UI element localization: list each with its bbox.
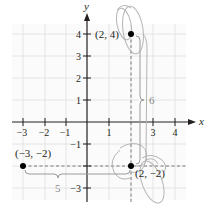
brace-horizontal-label: 5 [55,182,61,194]
point-label-2-4: (2, 4) [95,28,119,41]
x-tick-label: −1 [60,127,71,138]
y-tick-label: 3 [76,51,81,62]
point-2-neg2 [128,163,134,169]
x-tick-label: 1 [107,127,112,138]
y-tick-label: 1 [76,95,81,106]
brace-vertical-label: 6 [149,94,155,106]
y-tick-label: 4 [76,29,81,40]
point-2-4 [128,31,134,37]
y-tick-label: −1 [70,139,81,150]
x-tick-label: 4 [173,127,178,138]
x-axis-label: x [198,115,204,127]
point-neg3-neg2 [20,163,26,169]
point-label-neg3-neg2: (−3, −2) [15,147,52,160]
y-tick-label: −3 [70,183,81,194]
y-axis-arrow-icon [84,13,90,21]
point-label-2-neg2: (2, −2) [135,167,165,180]
x-axis-arrow-icon [188,119,196,125]
x-tick-label: −3 [17,127,28,138]
y-axis-label: y [83,0,89,12]
x-tick-label: −2 [39,127,50,138]
coordinate-plane: x y −3 −2 −1 1 3 4 4 3 2 1 −1 −3 6 5 [0,0,209,209]
x-tick-label: 3 [151,127,156,138]
y-tick-label: 2 [76,73,81,84]
